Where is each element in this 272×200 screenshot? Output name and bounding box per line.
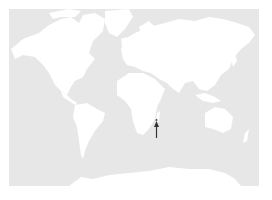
target-dot [156, 119, 158, 121]
world-map [9, 9, 259, 186]
world-map-svg [9, 9, 259, 186]
